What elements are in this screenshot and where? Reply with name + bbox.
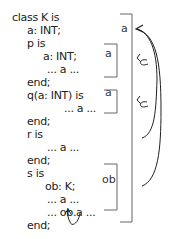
scope-diagram — [0, 0, 169, 239]
q-scope-bracket — [104, 90, 117, 113]
q-local-arrow — [140, 102, 148, 107]
s-scope-bracket — [104, 164, 117, 210]
class-scope-bracket — [120, 14, 132, 222]
s-to-class-arrow — [137, 29, 161, 186]
class-a-arrowhead — [136, 25, 143, 32]
p-local-arrow — [140, 60, 148, 65]
p-scope-bracket — [104, 44, 117, 77]
